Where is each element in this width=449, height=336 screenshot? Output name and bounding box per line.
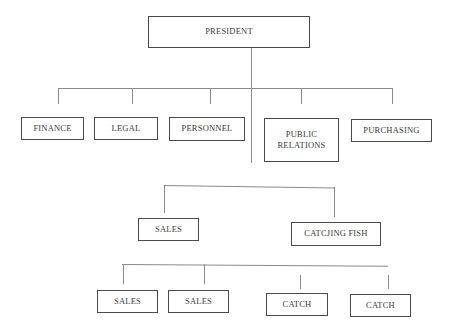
president-box: PRESIDENT [148,16,310,48]
legal-label: LEGAL [112,123,141,134]
president-trunk-line [251,47,252,163]
catch-b-connector [388,275,389,289]
level2-bus-line [164,185,335,188]
personnel-label: PERSONNEL [182,123,233,134]
sales-b-connector [204,264,205,284]
sales-a-connector [123,264,124,284]
personnel-box: PERSONNEL [169,117,245,141]
catch-b-box: CATCH [350,294,411,317]
sales-box: SALES [138,218,199,241]
catch-b-label: CATCH [366,300,395,311]
sales-a-label: SALES [114,296,141,307]
catching-fish-label: CATCJING FISH [304,228,367,239]
public-relations-label-line1: PUBLIC [286,129,317,140]
level3-bus-line [122,264,388,267]
sales-connector [164,185,165,213]
legal-connector [132,88,133,104]
finance-label: FINANCE [33,123,71,134]
finance-box: FINANCE [21,117,84,140]
finance-connector [58,88,59,104]
sales-b-label: SALES [185,296,212,307]
personnel-connector [210,88,211,104]
purchasing-connector [392,88,393,104]
sales-a-box: SALES [97,290,158,313]
sales-b-box: SALES [168,290,229,313]
public-relations-label-line2: RELATIONS [277,140,325,151]
president-label: PRESIDENT [205,26,253,37]
department-bus-line [58,88,393,89]
public-relations-box: PUBLIC RELATIONS [264,118,339,162]
catching-fish-box: CATCJING FISH [291,222,381,246]
legal-box: LEGAL [94,117,158,140]
catch-a-label: CATCH [283,299,312,310]
purchasing-box: PURCHASING [351,119,432,142]
catch-a-box: CATCH [266,293,328,316]
catch-a-connector [300,275,301,289]
purchasing-label: PURCHASING [363,125,419,136]
sales-label: SALES [155,224,182,235]
public-relations-connector [301,88,302,104]
catching-fish-connector [334,187,335,217]
